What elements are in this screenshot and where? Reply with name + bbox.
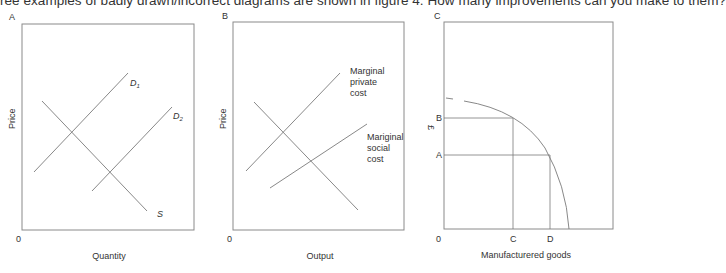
x-point-c: C [510,234,517,244]
panel-c-y-axis-label: £ [426,125,436,130]
ppf-dash [446,98,453,99]
panel-b: B Price 0 Output Marginal private cost M… [218,11,406,261]
d1-curve [34,73,128,172]
panel-c-x-axis-label: Manufacturered goods [481,250,572,260]
x-point-d: D [547,234,554,244]
panel-a-frame [22,24,194,230]
ppf-curve [464,101,569,229]
mpc-label: Marginal private cost [350,66,387,98]
y-point-b: B [436,113,442,123]
s-label: S [157,209,163,219]
demand-curve [254,102,358,210]
panel-a-x-axis-label: Quantity [92,251,126,261]
panel-a-origin: 0 [16,234,21,244]
d2-label: D2 [173,111,184,122]
panel-c-origin: 0 [436,234,441,244]
panel-c: C £ 0 Manufacturered goods B A C D [426,11,613,260]
panel-a-y-axis-label: Price [7,108,17,129]
panel-b-label: B [222,11,228,21]
marginal-private-cost-curve [246,73,340,171]
d2-curve [92,107,172,191]
msc-label: Mariginal social cost [367,132,406,164]
panel-c-frame [444,22,613,229]
panel-b-y-axis-label: Price [218,108,228,129]
panel-a: A Price 0 Quantity D1 D2 S [7,12,194,261]
supply-curve [42,101,147,211]
panel-c-label: C [434,11,441,21]
panel-a-label: A [9,12,15,22]
panel-b-x-axis-label: Output [306,251,334,261]
panel-b-frame [233,22,404,230]
d1-label: D1 [130,78,140,89]
y-point-a: A [436,150,442,160]
panel-b-origin: 0 [227,234,232,244]
